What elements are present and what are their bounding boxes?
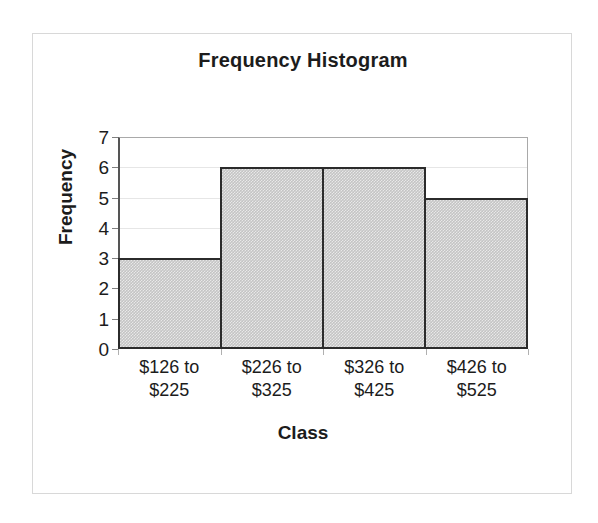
- x-axis-tick-mark: [118, 349, 119, 355]
- x-axis-tick-label-line: $425: [323, 379, 426, 402]
- x-axis-tick-label: $126 to$225: [118, 356, 221, 403]
- x-axis-tick-label: $426 to$525: [426, 356, 529, 403]
- bar: [424, 198, 528, 349]
- bar-series: [118, 137, 528, 349]
- x-axis-tick-labels: $126 to$225$226 to$325$326 to$425$426 to…: [118, 356, 528, 403]
- x-axis-tick-label-line: $426 to: [426, 356, 529, 379]
- x-axis-tick-label: $326 to$425: [323, 356, 426, 403]
- x-axis-tick-label-line: $326 to: [323, 356, 426, 379]
- x-axis-tick-mark: [323, 349, 324, 355]
- x-axis-tick-mark: [528, 349, 529, 355]
- x-axis-tick-label-line: $126 to: [118, 356, 221, 379]
- bar: [322, 167, 426, 349]
- x-axis-tick-mark: [426, 349, 427, 355]
- x-axis-tick-label-line: $325: [221, 379, 324, 402]
- x-axis-tick-mark: [221, 349, 222, 355]
- chart-title: Frequency Histogram: [33, 49, 573, 72]
- x-axis-tick-label-line: $525: [426, 379, 529, 402]
- x-axis-tick-label-line: $226 to: [221, 356, 324, 379]
- x-axis-tick-label: $226 to$325: [221, 356, 324, 403]
- chart-frame: Frequency Histogram Frequency 01234567 $…: [32, 33, 572, 494]
- x-axis-tick-label-line: $225: [118, 379, 221, 402]
- bar: [118, 258, 222, 349]
- x-axis-title: Class: [33, 422, 573, 444]
- bar: [220, 167, 324, 349]
